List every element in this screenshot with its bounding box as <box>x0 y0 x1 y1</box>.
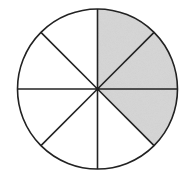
fraction-circle-diagram <box>0 0 187 175</box>
center-point <box>96 87 100 91</box>
